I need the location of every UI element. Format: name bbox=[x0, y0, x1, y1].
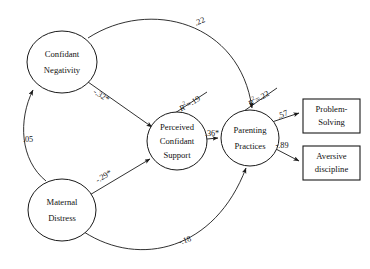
svg-text:R2=.19: R2=.19 bbox=[176, 93, 202, 114]
node-confidant-negativity-label-line2: Negativity bbox=[44, 65, 81, 75]
svg-text:R2=.22: R2=.22 bbox=[245, 88, 271, 109]
coefficient-perceived-support-to-parenting-practices: .36* bbox=[205, 129, 219, 138]
node-parenting-practices-label-line2: Practices bbox=[234, 141, 266, 151]
coefficient-confidant-negativity-to-perceived-support: -.32* bbox=[92, 87, 111, 104]
r2-perceived-confidant-support-value: =.19 bbox=[184, 94, 201, 109]
edge-perceived-support-to-parenting-practices bbox=[207, 138, 218, 139]
latent-nodes-group: Confidant Negativity Perceived Confidant… bbox=[27, 31, 279, 241]
node-perceived-confidant-support-label-line2: Confidant bbox=[160, 136, 195, 146]
node-parenting-practices-label-line1: Parenting bbox=[234, 125, 268, 135]
node-maternal-distress-shape[interactable] bbox=[28, 179, 96, 241]
r2-perceived-confidant-support: R2=.19 bbox=[176, 93, 202, 114]
r-squared-labels-group: R2=.19 R2=.22 bbox=[176, 88, 271, 114]
coefficient-maternal-distress-to-confidant-negativity: .05 bbox=[23, 135, 33, 144]
node-perceived-confidant-support-label-line1: Perceived bbox=[160, 122, 195, 132]
node-confidant-negativity-shape[interactable] bbox=[27, 31, 97, 93]
coefficient-parenting-practices-to-aversive-discipline: -.89 bbox=[276, 141, 289, 150]
node-aversive-discipline[interactable]: Aversive discipline bbox=[303, 146, 360, 180]
node-maternal-distress-label-line2: Distress bbox=[48, 213, 76, 223]
r2-parenting-practices: R2=.22 bbox=[245, 88, 271, 109]
node-confidant-negativity-label-line1: Confidant bbox=[45, 49, 80, 59]
node-maternal-distress-label-line1: Maternal bbox=[46, 197, 78, 207]
observed-nodes-group: Problem- Solving Aversive discipline bbox=[303, 99, 360, 180]
node-problem-solving-label-line2: Solving bbox=[318, 117, 345, 127]
node-perceived-confidant-support-label-line3: Support bbox=[163, 150, 191, 160]
node-problem-solving[interactable]: Problem- Solving bbox=[303, 99, 360, 133]
node-parenting-practices-shape[interactable] bbox=[221, 110, 279, 166]
path-diagram-svg: Confidant Negativity Perceived Confidant… bbox=[0, 0, 370, 269]
path-diagram-canvas: Confidant Negativity Perceived Confidant… bbox=[0, 0, 370, 269]
node-aversive-discipline-label-line1: Aversive bbox=[316, 151, 347, 161]
coefficient-maternal-distress-to-parenting-practices: -.18 bbox=[177, 234, 192, 247]
coefficient-confidant-negativity-to-parenting-practices: .22 bbox=[193, 15, 206, 27]
edge-confidant-negativity-to-parenting-practices bbox=[88, 19, 252, 108]
node-parenting-practices[interactable]: Parenting Practices bbox=[221, 110, 279, 166]
coefficient-parenting-practices-to-problem-solving: .57 bbox=[276, 108, 289, 120]
node-problem-solving-label-line1: Problem- bbox=[316, 104, 348, 114]
edge-maternal-distress-to-parenting-practices bbox=[84, 168, 246, 250]
node-confidant-negativity[interactable]: Confidant Negativity bbox=[27, 31, 97, 93]
r2-parenting-practices-value: =.22 bbox=[253, 89, 270, 104]
edge-parenting-practices-to-aversive-discipline bbox=[274, 148, 299, 161]
node-maternal-distress[interactable]: Maternal Distress bbox=[28, 179, 96, 241]
node-perceived-confidant-support[interactable]: Perceived Confidant Support bbox=[147, 112, 207, 170]
node-aversive-discipline-label-line2: discipline bbox=[315, 164, 349, 174]
